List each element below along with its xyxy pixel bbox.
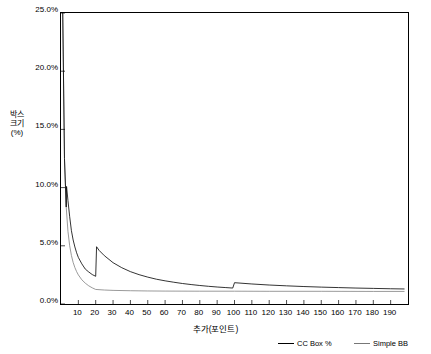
x-tick-label: 140 <box>296 308 309 317</box>
series-layer <box>61 13 408 304</box>
x-tick-label: 150 <box>314 308 327 317</box>
y-tick-label: 10.0% <box>35 181 58 189</box>
x-tick-label: 160 <box>331 308 344 317</box>
x-tick-label: 30 <box>108 308 117 317</box>
x-tick-label: 70 <box>177 308 186 317</box>
x-tick-label: 100 <box>227 308 240 317</box>
x-tick-label: 90 <box>212 308 221 317</box>
x-tick-label: 190 <box>383 308 396 317</box>
x-tick-label: 80 <box>194 308 203 317</box>
legend-item-simple-bb: Simple BB <box>354 337 408 349</box>
legend-swatch-simple-bb <box>354 343 370 344</box>
y-axis-tick-labels: 0.0%5.0%10.0%15.0%20.0%25.0% <box>22 6 58 306</box>
x-tick-label: 120 <box>262 308 275 317</box>
chart-container: 박스크기(%) 0.0%5.0%10.0%15.0%20.0%25.0% 102… <box>0 0 431 354</box>
series-simple-bb <box>63 13 405 291</box>
y-tick-label: 25.0% <box>35 6 58 14</box>
y-tick-label: 0.0% <box>40 297 58 305</box>
x-tick-label: 40 <box>125 308 134 317</box>
x-tick-label: 130 <box>279 308 292 317</box>
x-tick-label: 60 <box>160 308 169 317</box>
series-cc-box <box>63 13 405 289</box>
legend-label-simple-bb: Simple BB <box>373 339 408 348</box>
y-tick-label: 15.0% <box>35 122 58 130</box>
x-axis-ticks <box>78 300 390 304</box>
x-tick-label: 180 <box>366 308 379 317</box>
x-tick-label: 10 <box>73 308 82 317</box>
y-tick-label: 5.0% <box>40 239 58 247</box>
x-tick-label: 170 <box>348 308 361 317</box>
plot-area <box>60 12 409 305</box>
chart-legend: CC Box % Simple BB <box>278 337 426 350</box>
x-tick-label: 20 <box>90 308 99 317</box>
x-axis-tick-labels: 1020304050607080901001101201301401501601… <box>56 308 416 320</box>
x-tick-label: 50 <box>142 308 151 317</box>
legend-item-cc-box: CC Box % <box>278 337 332 349</box>
legend-swatch-cc-box <box>278 343 294 344</box>
x-tick-label: 110 <box>244 308 257 317</box>
x-axis-title: 추가(포인트) <box>0 322 431 334</box>
legend-label-cc-box: CC Box % <box>297 339 332 348</box>
y-tick-label: 20.0% <box>35 64 58 72</box>
